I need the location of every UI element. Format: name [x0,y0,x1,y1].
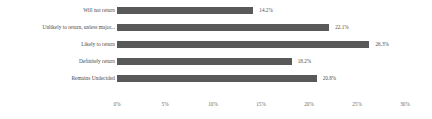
bar-row[interactable]: Likely to return 26.3% [0,36,432,53]
x-tick-label: 15% [256,100,266,108]
bar-fill[interactable] [117,41,369,48]
category-label: Likely to return [0,36,115,53]
x-tick-label: 0% [114,100,121,108]
x-tick-label: 25% [352,100,362,108]
x-tick-label: 5% [162,100,169,108]
bar-track: 26.3% [117,41,408,48]
x-axis: 0% 5% 10% 15% 20% 25% 30% [0,95,432,119]
bar-value-label: 26.3% [375,41,388,48]
bar-track: 14.2% [117,7,408,14]
x-tick-label: 10% [208,100,218,108]
horizontal-bar-chart: Will not return 14.2% Unlikely to return… [0,0,432,119]
bar-track: 18.2% [117,58,408,65]
category-label: Definitely return [0,53,115,70]
category-label: Remains Undecided [0,70,115,87]
bar-row[interactable]: Unlikely to return, unless major... 22.1… [0,19,432,36]
bar-row[interactable]: Remains Undecided 20.8% [0,70,432,87]
bar-row[interactable]: Definitely return 18.2% [0,53,432,70]
bar-fill[interactable] [117,75,317,82]
bar-fill[interactable] [117,7,253,14]
bar-row[interactable]: Will not return 14.2% [0,2,432,19]
bar-value-label: 22.1% [335,24,348,31]
bar-track: 20.8% [117,75,408,82]
bar-value-label: 14.2% [259,7,272,14]
bar-track: 22.1% [117,24,408,31]
bar-value-label: 18.2% [298,58,311,65]
x-tick-label: 20% [304,100,314,108]
bar-value-label: 20.8% [323,75,336,82]
category-label: Unlikely to return, unless major... [0,19,115,36]
category-label: Will not return [0,2,115,19]
x-tick-label: 30% [400,100,410,108]
plot-area: Will not return 14.2% Unlikely to return… [0,0,432,95]
bar-fill[interactable] [117,58,292,65]
bar-fill[interactable] [117,24,329,31]
